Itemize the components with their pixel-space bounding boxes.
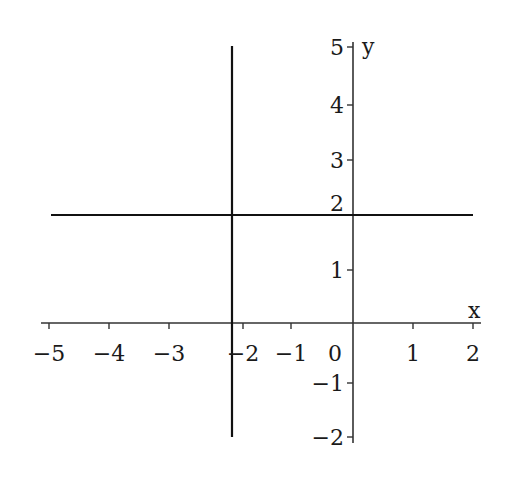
x-tick-label: −4: [93, 341, 125, 366]
coordinate-plot: −5−4−3−2−101254321−1−2 x y: [0, 0, 510, 480]
x-tick-label: −3: [153, 341, 185, 366]
y-tick-label: −2: [312, 425, 344, 450]
y-tick-label: −1: [312, 371, 344, 396]
y-tick-label: 2: [330, 191, 344, 216]
y-tick-label: 5: [330, 35, 344, 60]
tick-labels: −5−4−3−2−101254321−1−2: [33, 35, 480, 450]
y-tick-label: 1: [330, 258, 344, 283]
y-tick-label: 3: [330, 148, 344, 173]
x-tick-label: −1: [275, 341, 307, 366]
y-tick-label: 4: [330, 93, 344, 118]
x-axis-label: x: [468, 298, 481, 323]
axes: [41, 42, 481, 443]
x-tick-label: −5: [33, 341, 65, 366]
x-tick-label: 1: [406, 341, 420, 366]
ticks: [49, 47, 473, 437]
y-axis-label: y: [361, 34, 375, 59]
x-tick-label: −2: [227, 341, 259, 366]
series-lines: [51, 46, 473, 437]
x-tick-label: 0: [328, 341, 342, 366]
x-tick-label: 2: [466, 341, 480, 366]
